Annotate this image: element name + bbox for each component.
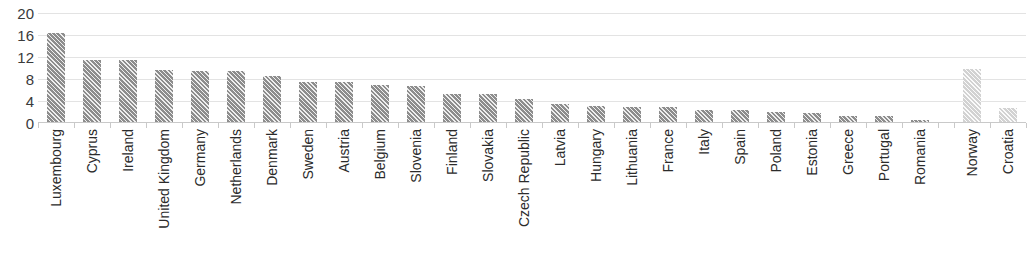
x-axis-tickmark xyxy=(326,123,327,128)
category-slot: Hungary xyxy=(578,129,614,277)
x-axis-tickmark xyxy=(146,123,147,128)
category-slot: Cyprus xyxy=(74,129,110,277)
x-axis-tickmark xyxy=(758,123,759,128)
x-axis-tick-label: Netherlands xyxy=(229,129,243,205)
bar-slot xyxy=(74,13,110,123)
category-slot: United Kingdom xyxy=(146,129,182,277)
y-axis-tick-label: 16 xyxy=(17,28,34,43)
x-axis-tickmark xyxy=(506,123,507,128)
x-axis-tickmark xyxy=(218,123,219,128)
x-axis-tickmark xyxy=(722,123,723,128)
bar-slot xyxy=(434,13,470,123)
x-axis-tickmark xyxy=(650,123,651,128)
bar-slot xyxy=(470,13,506,123)
bar-slot xyxy=(362,13,398,123)
category-slot: Luxembourg xyxy=(38,129,74,277)
bar-slot xyxy=(506,13,542,123)
bar xyxy=(83,60,101,123)
category-slot: Poland xyxy=(758,129,794,277)
category-slot: Denmark xyxy=(254,129,290,277)
x-axis-tickmark xyxy=(182,123,183,128)
bar-slot xyxy=(218,13,254,123)
category-slot: Finland xyxy=(434,129,470,277)
x-axis-tick-label: Denmark xyxy=(265,129,279,186)
bar xyxy=(479,94,497,123)
x-axis-tickmark xyxy=(542,123,543,128)
bar-slot xyxy=(542,13,578,123)
bar xyxy=(119,60,137,123)
category-slot: Austria xyxy=(326,129,362,277)
x-axis-tickmark xyxy=(110,123,111,128)
y-axis-tick-label: 20 xyxy=(17,6,34,21)
x-axis-tick-label: Italy xyxy=(697,129,711,155)
bar-slot xyxy=(326,13,362,123)
x-axis-tickmark xyxy=(74,123,75,128)
category-slot: Norway xyxy=(954,129,990,277)
x-axis-tick-label: Ireland xyxy=(121,129,135,172)
bar-slot xyxy=(254,13,290,123)
x-axis-tickmark xyxy=(954,123,955,128)
y-axis-tick-label: 8 xyxy=(26,72,34,87)
category-slot: Sweden xyxy=(290,129,326,277)
bar-slot xyxy=(954,13,990,123)
x-axis-tickmark xyxy=(254,123,255,128)
x-axis-tick-label: Portugal xyxy=(877,129,891,181)
bar xyxy=(335,82,353,123)
category-slot: Czech Republic xyxy=(506,129,542,277)
bar xyxy=(191,71,209,123)
category-slot: Spain xyxy=(722,129,758,277)
category-slot: Germany xyxy=(182,129,218,277)
bar xyxy=(407,86,425,123)
bar-slot xyxy=(902,13,938,123)
x-axis-tickmark xyxy=(830,123,831,128)
x-axis-tickmark xyxy=(990,123,991,128)
x-axis-tickmark xyxy=(902,123,903,128)
x-axis-tickmark xyxy=(794,123,795,128)
x-axis-tick-label: Cyprus xyxy=(85,129,99,173)
category-slot: Portugal xyxy=(866,129,902,277)
x-axis-tickmark xyxy=(938,123,939,128)
bar xyxy=(47,33,65,123)
x-axis-tick-label: Belgium xyxy=(373,129,387,180)
bar xyxy=(155,70,173,123)
bar-slot xyxy=(110,13,146,123)
bar xyxy=(299,82,317,123)
category-slot: Italy xyxy=(686,129,722,277)
y-axis-tick-label: 4 xyxy=(26,94,34,109)
bar xyxy=(443,94,461,123)
bar xyxy=(371,85,389,124)
x-axis-tick-label: Austria xyxy=(337,129,351,173)
x-axis-tick-label: Norway xyxy=(965,129,979,176)
x-axis-tick-label: Lithuania xyxy=(625,129,639,186)
category-slot: France xyxy=(650,129,686,277)
category-slot: Croatia xyxy=(990,129,1026,277)
bar xyxy=(999,108,1017,123)
bar-slot xyxy=(578,13,614,123)
y-axis-tick-label: 12 xyxy=(17,50,34,65)
bar xyxy=(963,69,981,123)
x-axis-tickmark xyxy=(470,123,471,128)
x-axis-tick-label: Slovakia xyxy=(481,129,495,182)
x-axis-tickmark xyxy=(398,123,399,128)
x-axis-tickmark xyxy=(866,123,867,128)
x-axis-tick-label: Greece xyxy=(841,129,855,175)
bar-slot xyxy=(794,13,830,123)
bar-chart: 201612840 LuxembourgCyprusIrelandUnited … xyxy=(0,0,1033,279)
bar xyxy=(623,107,641,124)
category-slot: Belgium xyxy=(362,129,398,277)
x-axis-tick-label: Finland xyxy=(445,129,459,175)
bar-slot xyxy=(290,13,326,123)
bar-slot xyxy=(38,13,74,123)
bar-slot xyxy=(830,13,866,123)
x-axis-tick-label: France xyxy=(661,129,675,173)
x-axis-tick-label: United Kingdom xyxy=(157,129,171,229)
bar-slot xyxy=(650,13,686,123)
x-axis-tick-label: Croatia xyxy=(1001,129,1015,174)
category-slot: Estonia xyxy=(794,129,830,277)
x-axis-tick-label: Spain xyxy=(733,129,747,165)
bar-slot xyxy=(866,13,902,123)
bar-slot xyxy=(990,13,1026,123)
x-axis-tickmarks xyxy=(38,123,1026,128)
x-axis-tickmark xyxy=(362,123,363,128)
x-axis-tick-label: Sweden xyxy=(301,129,315,180)
